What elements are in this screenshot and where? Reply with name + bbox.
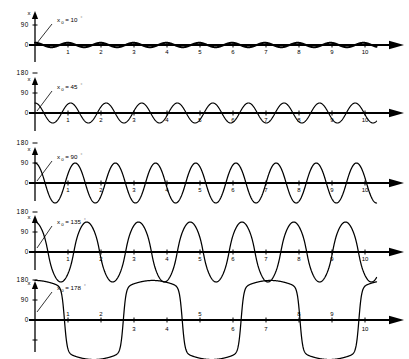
y-axis-arrowhead	[32, 147, 38, 155]
label-subscript: 0	[61, 288, 64, 293]
panel-178deg: x18090012345678910x0= 178°	[0, 278, 409, 359]
x-tick-label: 1	[66, 256, 70, 262]
label-degree-symbol: °	[84, 217, 86, 222]
label-leader-line	[37, 91, 52, 111]
x-tick-label: 4	[165, 326, 169, 332]
x-tick-label: 2	[99, 311, 103, 317]
label-value: = 135	[65, 218, 81, 225]
y-tick-label: 90	[21, 89, 29, 96]
y-tick-label: 0	[25, 109, 29, 116]
x-tick-label: 6	[231, 187, 235, 193]
y-axis-variable-label: x	[28, 76, 31, 82]
y-axis-variable-label: x	[28, 146, 31, 152]
x-tick-label: 1	[66, 187, 70, 193]
x-tick-label: 5	[198, 49, 202, 55]
x-axis-arrowhead	[389, 248, 404, 257]
x-tick-label: 7	[264, 256, 268, 262]
x-tick-label: 6	[231, 256, 235, 262]
y-axis-arrowhead	[32, 11, 38, 19]
x-tick-label: 6	[231, 49, 235, 55]
x-tick-label: 10	[362, 49, 369, 55]
x-tick-label: 5	[198, 256, 202, 262]
y-tick-label: 0	[25, 179, 29, 186]
y-tick-label: 180	[17, 208, 29, 215]
initial-amplitude-label: x0= 10°	[57, 15, 83, 25]
label-subscript: 0	[61, 87, 64, 92]
label-leader-line	[37, 161, 52, 181]
y-tick-label: 90	[21, 159, 29, 166]
x-tick-label: 4	[165, 49, 169, 55]
y-axis-arrowhead	[32, 77, 38, 85]
x-tick-label: 1	[66, 117, 70, 123]
y-axis-arrowhead	[32, 281, 38, 289]
x-tick-label: 3	[132, 117, 136, 123]
label-degree-symbol: °	[81, 152, 83, 157]
label-value: = 45	[65, 83, 78, 90]
x-tick-label: 7	[264, 49, 268, 55]
label-leader-line	[37, 292, 52, 312]
y-axis-variable-label: x	[28, 10, 31, 16]
y-tick-label: 90	[21, 21, 29, 28]
y-tick-label: 180	[17, 276, 29, 283]
x-tick-label: 3	[132, 256, 136, 262]
x-tick-label: 4	[165, 256, 169, 262]
x-axis-arrowhead	[389, 41, 404, 50]
x-tick-label: 3	[132, 187, 136, 193]
label-value: = 178	[65, 284, 81, 291]
pendulum-amplitude-figure: x90012345678910x0= 10°x18090012345678910…	[0, 0, 409, 359]
label-subscript: 0	[61, 157, 64, 162]
x-tick-label: 9	[330, 49, 334, 55]
x-tick-label: 10	[362, 256, 369, 262]
x-tick-label: 9	[330, 187, 334, 193]
x-tick-label: 7	[264, 326, 268, 332]
x-tick-label: 5	[198, 187, 202, 193]
panel-45deg: x18090012345678910x0= 45°	[0, 70, 409, 140]
label-leader-line	[37, 226, 52, 248]
x-axis-arrowhead	[389, 316, 404, 325]
panel-10deg: x90012345678910x0= 10°	[0, 0, 409, 70]
label-subscript: 0	[61, 20, 64, 25]
y-tick-label: 180	[17, 69, 29, 76]
label-degree-symbol: °	[84, 283, 86, 288]
y-tick-label: 0	[25, 41, 29, 48]
x-axis-arrowhead	[389, 179, 404, 188]
label-value: = 90	[65, 153, 78, 160]
label-leader-line	[37, 24, 52, 43]
x-tick-label: 8	[297, 49, 301, 55]
x-tick-label: 1	[66, 49, 70, 55]
initial-amplitude-label: x0= 178°	[57, 283, 86, 293]
x-tick-label: 2	[99, 117, 103, 123]
x-tick-label: 6	[231, 326, 235, 332]
x-tick-label: 3	[132, 49, 136, 55]
x-tick-label: 1	[66, 311, 70, 317]
x-axis-arrowhead	[389, 109, 404, 118]
x-tick-label: 10	[362, 326, 369, 332]
y-tick-label: 180	[17, 139, 29, 146]
initial-amplitude-label: x0= 45°	[57, 82, 83, 92]
x-tick-label: 9	[330, 311, 334, 317]
panel-90deg: x18090012345678910x0= 90°	[0, 140, 409, 210]
label-subscript: 0	[61, 222, 64, 227]
panel-135deg: x18090012345678910x0= 135°	[0, 210, 409, 280]
initial-amplitude-label: x0= 90°	[57, 152, 83, 162]
label-degree-symbol: °	[81, 82, 83, 87]
x-tick-label: 8	[297, 187, 301, 193]
x-tick-label: 2	[99, 49, 103, 55]
y-tick-label: 0	[25, 316, 29, 323]
y-tick-label: 90	[21, 296, 29, 303]
x-tick-label: 3	[132, 326, 136, 332]
x-tick-label: 8	[297, 256, 301, 262]
y-tick-label: 90	[21, 228, 29, 235]
y-tick-label: 0	[25, 248, 29, 255]
label-value: = 10	[65, 16, 78, 23]
x-tick-label: 5	[198, 311, 202, 317]
label-degree-symbol: °	[81, 15, 83, 20]
